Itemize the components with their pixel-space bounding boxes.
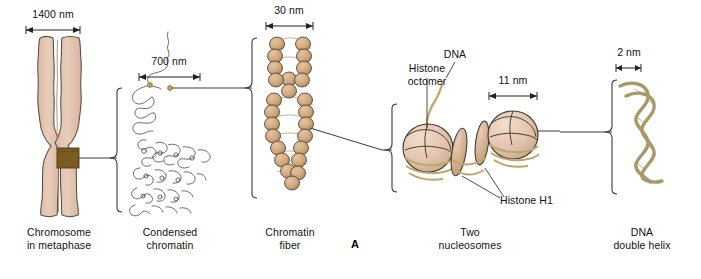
bracket-dna-helix (560, 80, 617, 194)
scale-label-11nm: 11 nm (476, 74, 550, 86)
bracket-condensed-chromatin (108, 88, 122, 212)
chromatin-organization-figure: 1400 nm 700 nm 30 nm 11 nm 2 nm DNA Hist… (0, 0, 701, 279)
annotation-histone-h1: Histone H1 (500, 194, 590, 207)
bracket-chromatin-fiber (242, 38, 257, 198)
scale-bar-2nm (616, 64, 641, 72)
chromosome-metaphase-illustration (38, 37, 108, 217)
scale-bar-1400nm (26, 26, 80, 34)
chromatin-fiber-illustration (265, 37, 383, 190)
leader-h1-right (485, 168, 504, 197)
nucleosome-right (488, 111, 539, 167)
annotation-histone-octomer: Histone octomer (396, 62, 458, 87)
caption-dna-double-helix: DNA double helix (594, 226, 690, 251)
condensed-chromatin-nodes (148, 83, 173, 91)
leader-h1-left (462, 176, 500, 198)
histone-h1-right (473, 120, 491, 165)
bracket-two-nucleosomes (382, 104, 397, 192)
scale-bar-30nm (266, 22, 313, 30)
caption-condensed-chromatin: Condensed chromatin (124, 226, 216, 251)
scale-label-30nm: 30 nm (252, 4, 326, 16)
scale-label-700nm: 700 nm (132, 55, 206, 67)
caption-two-nucleosomes: Two nucleosomes (418, 226, 522, 251)
annotation-dna: DNA (430, 48, 480, 61)
caption-chromosome-metaphase: Chromosome in metaphase (8, 226, 110, 251)
panel-letter: A (351, 238, 359, 250)
nucleosome-left (403, 124, 454, 180)
scale-label-1400nm: 1400 nm (16, 8, 90, 20)
histone-h1-left (448, 127, 469, 177)
scale-bar-11nm (489, 92, 537, 100)
dna-double-helix-illustration (620, 83, 662, 182)
scale-label-2nm: 2 nm (602, 46, 656, 58)
scale-bar-700nm (139, 73, 200, 81)
caption-chromatin-fiber: Chromatin fiber (248, 226, 332, 251)
